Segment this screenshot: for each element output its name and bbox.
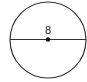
circle-diagram: 8 <box>0 0 87 82</box>
diameter-label: 8 <box>45 24 51 36</box>
center-point <box>46 37 50 41</box>
